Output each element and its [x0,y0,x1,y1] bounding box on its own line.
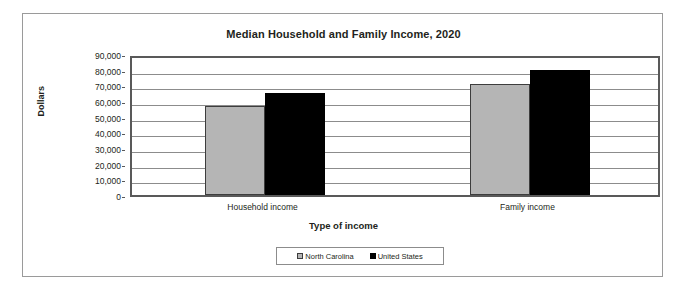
chart-title: Median Household and Family Income, 2020 [23,28,664,40]
legend-entry: United States [370,252,423,261]
y-axis-tick-label: 20,000 [95,161,121,171]
y-axis-tick-mark [122,181,125,182]
y-axis-tick-mark [122,197,125,198]
y-axis-tick-mark [122,72,125,73]
legend-label: North Carolina [305,252,353,261]
bar-united-states-household-income [265,93,325,195]
bar-north-carolina-family-income [470,84,530,195]
legend-label: United States [378,252,423,261]
y-axis-tick-mark [122,134,125,135]
y-axis-tick-label: 0 [116,192,121,202]
y-axis-tick-mark [122,103,125,104]
y-axis-tick-label: 50,000 [95,114,121,124]
y-axis-tick-label: 40,000 [95,129,121,139]
y-axis-tick-label: 80,000 [95,67,121,77]
x-axis-category-label: Household income [130,202,395,212]
bar-north-carolina-household-income [205,106,265,195]
y-axis-title: Dollars [36,86,50,117]
legend-swatch-icon [370,253,376,259]
plot-area [130,56,660,197]
y-axis-tick-label: 90,000 [95,51,121,61]
chart-frame: Median Household and Family Income, 2020… [22,13,663,277]
y-axis-tick-mark [122,56,125,57]
legend-entry: North Carolina [297,252,353,261]
bar-united-states-family-income [530,70,590,195]
y-axis-tick-label: 30,000 [95,145,121,155]
y-axis-tick-label: 70,000 [95,82,121,92]
chart-legend: North CarolinaUnited States [276,247,444,265]
y-axis-tick-mark [122,166,125,167]
y-axis-tick-label: 60,000 [95,98,121,108]
y-axis-tick-mark [122,119,125,120]
y-axis-tick-mark [122,150,125,151]
legend-swatch-icon [297,253,303,259]
y-axis-tick-mark [122,87,125,88]
x-axis-title: Type of income [23,220,664,231]
y-axis-tick-label: 10,000 [95,176,121,186]
y-axis-tick-labels: 90,00080,00070,00060,00050,00040,00030,0… [65,56,125,197]
x-axis-category-label: Family income [395,202,660,212]
